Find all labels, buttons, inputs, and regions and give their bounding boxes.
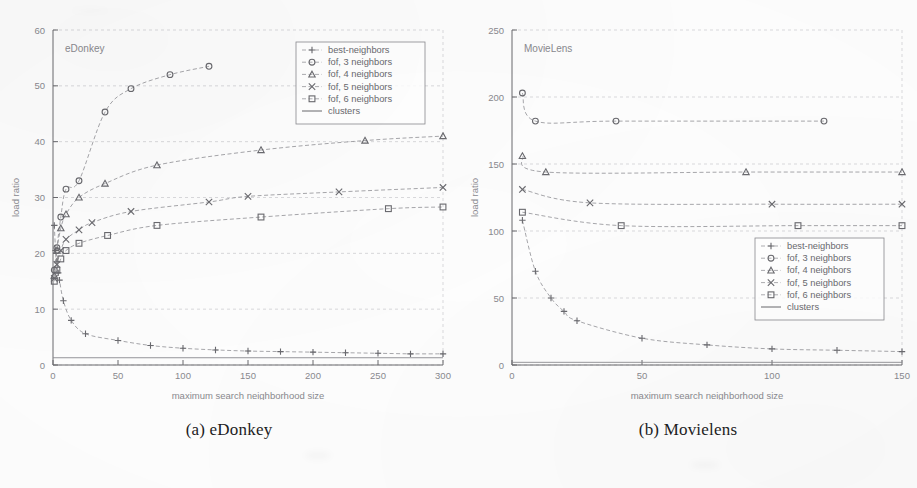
data-point-marker bbox=[342, 350, 348, 356]
x-tick-label: 50 bbox=[637, 370, 648, 381]
data-point-marker bbox=[89, 219, 95, 225]
y-tick-label: 30 bbox=[34, 192, 45, 203]
x-tick-label: 150 bbox=[240, 370, 256, 381]
series-line bbox=[522, 93, 824, 123]
data-point-marker bbox=[574, 318, 580, 324]
series-line bbox=[54, 207, 443, 281]
data-point-marker bbox=[440, 133, 446, 139]
x-tick-label: 250 bbox=[370, 370, 386, 381]
data-series bbox=[520, 90, 827, 124]
legend-label: fof, 4 neighbors bbox=[328, 69, 392, 79]
data-point-marker bbox=[212, 347, 218, 353]
y-tick-label: 150 bbox=[488, 159, 504, 170]
y-axis-label: load ratio bbox=[10, 178, 21, 217]
data-point-marker bbox=[60, 298, 66, 304]
legend-label: fof, 3 neighbors bbox=[787, 253, 851, 263]
legend-label: fof, 5 neighbors bbox=[787, 278, 851, 288]
data-series bbox=[51, 63, 212, 273]
data-point-marker bbox=[63, 236, 69, 242]
data-series bbox=[51, 222, 446, 357]
y-tick-label: 60 bbox=[34, 25, 45, 36]
data-point-marker bbox=[277, 348, 283, 354]
data-point-marker bbox=[180, 345, 186, 351]
legend-label: clusters bbox=[787, 302, 819, 312]
x-axis-label: maximum search neighborhood size bbox=[172, 390, 325, 400]
chart-legend: best-neighborsfof, 3 neighborsfof, 4 nei… bbox=[755, 238, 884, 320]
panel-caption-a: (a) eDonkey bbox=[0, 420, 458, 440]
series-line bbox=[54, 187, 443, 278]
data-point-marker bbox=[704, 342, 710, 348]
x-tick-label: 100 bbox=[175, 370, 191, 381]
data-point-marker bbox=[899, 348, 905, 354]
data-series-group bbox=[512, 90, 905, 362]
y-tick-label: 10 bbox=[34, 304, 45, 315]
legend-label: fof, 4 neighbors bbox=[787, 265, 851, 275]
data-point-marker bbox=[375, 350, 381, 356]
data-point-marker bbox=[115, 337, 121, 343]
series-line bbox=[521, 156, 902, 173]
data-point-marker bbox=[519, 186, 525, 192]
tick-marks: 050100150200250050100150 bbox=[488, 25, 910, 382]
legend-label: best-neighbors bbox=[328, 45, 390, 55]
data-point-marker bbox=[548, 295, 554, 301]
figure-root: 0102030405060050100150200250300maximum s… bbox=[0, 0, 917, 488]
x-tick-label: 0 bbox=[509, 370, 514, 381]
chart-inner-title: MovieLens bbox=[524, 43, 572, 54]
y-tick-label: 250 bbox=[488, 25, 504, 36]
chart-svg-movielens: 050100150200250050100150maximum search n… bbox=[459, 0, 917, 400]
chart-panel-movielens: 050100150200250050100150maximum search n… bbox=[459, 0, 917, 488]
y-tick-label: 20 bbox=[34, 248, 45, 259]
data-series bbox=[519, 186, 905, 207]
data-point-marker bbox=[769, 346, 775, 352]
x-axis-label: maximum search neighborhood size bbox=[631, 390, 784, 400]
plot-area-edonkey: 0102030405060050100150200250300maximum s… bbox=[0, 0, 458, 400]
data-point-marker bbox=[128, 208, 134, 214]
legend-label: fof, 6 neighbors bbox=[787, 290, 851, 300]
data-point-marker bbox=[105, 233, 111, 239]
data-point-marker bbox=[82, 331, 88, 337]
chart-inner-title: eDonkey bbox=[65, 43, 104, 54]
x-tick-label: 50 bbox=[113, 370, 124, 381]
legend-label: best-neighbors bbox=[787, 241, 849, 251]
y-axis-label: load ratio bbox=[469, 178, 480, 217]
data-point-marker bbox=[63, 211, 69, 217]
series-line bbox=[522, 212, 902, 226]
plot-area-movielens: 050100150200250050100150maximum search n… bbox=[459, 0, 917, 400]
legend-label: fof, 5 neighbors bbox=[328, 82, 392, 92]
series-line bbox=[54, 225, 443, 353]
y-tick-label: 200 bbox=[488, 92, 504, 103]
data-point-marker bbox=[440, 351, 446, 357]
series-line bbox=[522, 189, 902, 204]
legend-label: fof, 3 neighbors bbox=[328, 57, 392, 67]
data-point-marker bbox=[76, 227, 82, 233]
x-tick-label: 150 bbox=[894, 370, 910, 381]
legend-label: fof, 6 neighbors bbox=[328, 94, 392, 104]
y-tick-label: 50 bbox=[34, 80, 45, 91]
data-point-marker bbox=[639, 335, 645, 341]
x-tick-label: 0 bbox=[50, 370, 55, 381]
series-line bbox=[54, 66, 209, 270]
series-line bbox=[54, 136, 443, 276]
legend-label: clusters bbox=[328, 106, 360, 116]
chart-svg-edonkey: 0102030405060050100150200250300maximum s… bbox=[0, 0, 458, 400]
data-point-marker bbox=[68, 317, 74, 323]
chart-panel-edonkey: 0102030405060050100150200250300maximum s… bbox=[0, 0, 458, 488]
x-tick-label: 100 bbox=[764, 370, 780, 381]
data-point-marker bbox=[245, 348, 251, 354]
data-series bbox=[520, 209, 905, 228]
data-point-marker bbox=[51, 222, 57, 228]
data-point-marker bbox=[532, 268, 538, 274]
data-point-marker bbox=[834, 347, 840, 353]
y-tick-label: 0 bbox=[40, 360, 45, 371]
y-tick-label: 50 bbox=[493, 293, 504, 304]
data-point-marker bbox=[407, 351, 413, 357]
y-tick-label: 40 bbox=[34, 136, 45, 147]
x-tick-label: 200 bbox=[305, 370, 321, 381]
data-point-marker bbox=[147, 342, 153, 348]
y-tick-label: 0 bbox=[499, 360, 504, 371]
data-point-marker bbox=[519, 217, 525, 223]
chart-legend: best-neighborsfof, 3 neighborsfof, 4 nei… bbox=[296, 42, 425, 124]
x-tick-label: 300 bbox=[435, 370, 451, 381]
y-tick-label: 100 bbox=[488, 226, 504, 237]
panel-caption-b: (b) Movielens bbox=[459, 420, 917, 440]
